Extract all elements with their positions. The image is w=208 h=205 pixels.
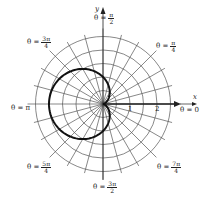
grid-spoke (34, 85, 103, 104)
grid-spoke (103, 42, 139, 104)
angle-prefix: θ = (94, 15, 106, 22)
fraction: 3π2 (107, 181, 117, 195)
grid-spoke (103, 68, 165, 104)
angle-label-3pi-over-2: θ = 3π2 (93, 181, 117, 195)
angle-prefix: θ = (157, 164, 169, 171)
angle-label-pi: θ = π (11, 105, 30, 112)
grid-spoke (103, 104, 172, 123)
angle-text: θ = 0 (180, 107, 199, 114)
denominator: 2 (109, 19, 113, 25)
angle-prefix: θ = (93, 184, 105, 191)
fraction: π2 (108, 12, 114, 26)
angle-text: θ = π (11, 105, 30, 112)
angle-label-pi-over-2: θ = π2 (94, 12, 114, 26)
angle-label-pi-over-4: θ = π4 (156, 40, 176, 54)
x-axis-label: x (193, 93, 197, 101)
grid-spoke (103, 35, 122, 104)
angle-label-zero: θ = 0 (180, 107, 199, 114)
grid-spoke (103, 85, 172, 104)
angle-label-7pi-over-4: θ = 7π4 (157, 161, 181, 175)
denominator: 4 (174, 168, 178, 174)
fraction: 7π4 (171, 161, 181, 175)
denominator: 4 (44, 43, 48, 49)
grid-spoke (103, 104, 139, 166)
fraction: π4 (170, 40, 176, 54)
angle-prefix: θ = (156, 43, 168, 50)
denominator: 4 (171, 47, 175, 53)
fraction: 5π4 (41, 161, 51, 175)
fraction: 3π4 (41, 36, 51, 50)
angle-label-5pi-over-4: θ = 5π4 (27, 161, 51, 175)
grid-spoke (50, 104, 103, 157)
grid-spoke (34, 104, 103, 123)
denominator: 4 (44, 168, 48, 174)
angle-label-3pi-over-4: θ = 3π4 (27, 36, 51, 50)
grid-spoke (103, 104, 122, 173)
grid-spoke (50, 51, 103, 104)
grid-spoke (103, 51, 156, 104)
radial-tick-1: 1 (128, 105, 132, 113)
angle-prefix: θ = (27, 164, 39, 171)
radial-tick-2: 2 (155, 105, 159, 113)
denominator: 2 (110, 188, 114, 194)
angle-prefix: θ = (27, 39, 39, 46)
